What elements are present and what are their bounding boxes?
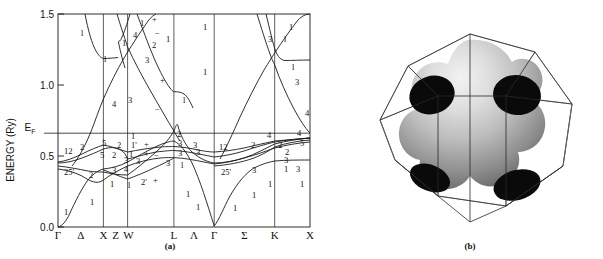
band-label-1-i: 1 (284, 164, 288, 174)
band-label-3-k: 3 (136, 156, 140, 166)
band-label-1-n: 1 (196, 202, 200, 212)
x-tick-label-w: W (123, 229, 134, 240)
band-label-l-3: l (183, 95, 186, 105)
x-tick-label-l: L (171, 229, 178, 240)
band-curve-7 (117, 14, 180, 141)
x-tick-label-sigma: Σ (241, 229, 247, 240)
band-label-5-c: 5 (100, 150, 104, 160)
band-label-1-r: 1 (300, 179, 304, 189)
x-tick-label-x-1: X (99, 229, 107, 240)
band-label-3-b: 3 (128, 95, 132, 105)
band-label-3-c: 3 (268, 34, 272, 44)
band-label-1-f: 1 (289, 22, 293, 32)
band-label-3-m: 3 (252, 165, 256, 175)
band-label-5-a: 5 (102, 138, 106, 148)
fermi-level-label: EF (25, 122, 36, 135)
caption-panel-a: (a) (120, 241, 220, 251)
band-label-1-p: 1 (252, 190, 256, 200)
band-label-4-b: 4 (112, 99, 117, 109)
band-structure-plot: ENERGY (Ry) 0.0 0.5 1.0 1.5 EF (0, 0, 320, 240)
band-label-4-d: 4 (267, 130, 272, 140)
x-tick-label-z: Z (112, 229, 119, 240)
band-label-plus-b: + (160, 75, 165, 85)
band-label-1-q: 1 (268, 179, 272, 189)
band-label-plus-a: + (152, 14, 157, 24)
band-label-3-l: 3 (166, 158, 170, 168)
y-tick-label-1: 0.5 (40, 151, 54, 162)
y-tick-label-2: 1.0 (40, 80, 54, 91)
fermi-surface-render (320, 0, 603, 240)
band-label-1-c: 1 (166, 34, 170, 44)
y-tick-label-3: 1.5 (40, 9, 54, 20)
fermi-surface-panel (320, 0, 603, 259)
band-label-1-b: 1 (122, 38, 126, 48)
x-tick-label-delta: Δ (77, 229, 84, 240)
band-label-minus-b: − (155, 104, 160, 114)
band-label-2-g: 2 (112, 150, 116, 160)
y-axis-title: ENERGY (Ry) (5, 118, 16, 182)
band-label-12-b: 12 (219, 142, 228, 152)
band-curve-11 (266, 14, 310, 61)
band-label-3-o: 3 (296, 164, 300, 174)
band-curve-12 (85, 14, 118, 59)
band-label-l-1: l (81, 28, 84, 38)
band-label-3-h: 3 (196, 147, 200, 157)
band-label-5-b: 5 (300, 138, 304, 148)
band-label-l-7: l (128, 180, 131, 190)
band-label-2-e: 2 (251, 140, 255, 150)
band-label-l-2: l (104, 54, 107, 64)
band-label-1-j: 1 (110, 179, 114, 189)
band-label-2-f: 2 (278, 140, 282, 150)
band-label-2-b: 2 (80, 142, 84, 152)
band-label-2-a: 2 (152, 40, 156, 50)
band-label-minus-c: − (154, 150, 159, 160)
band-label-25prime-a: 25' (64, 167, 75, 177)
band-label-1-o: 1 (233, 203, 237, 213)
band-label-l-6: l (181, 160, 184, 170)
band-label-3-g: 3 (178, 138, 182, 148)
band-label-2-i: 2 (89, 170, 93, 180)
x-tick-label-gamma-2: Γ (211, 229, 217, 240)
band-label-2-c: 2 (117, 140, 121, 150)
band-label-12-a: 12 (64, 146, 73, 156)
band-label-4-a: 4 (133, 30, 138, 40)
band-label-plus-e: + (153, 175, 158, 185)
band-label-l-5: l (292, 62, 295, 72)
y-tick-label-0: 0.0 (40, 222, 54, 233)
x-tick-label-lambda: Λ (190, 229, 198, 240)
band-label-1-h: 1 (129, 149, 133, 159)
plot-frame (58, 14, 310, 227)
band-label-3-d: 3 (295, 77, 299, 87)
band-label-1-a: 1 (140, 18, 144, 28)
band-label-2prime: 2' (141, 177, 147, 187)
band-label-3-j: 3 (112, 165, 116, 175)
band-label-1-d: 1 (203, 22, 207, 32)
band-label-1-l: 1 (90, 197, 94, 207)
band-label-3-i: 3 (178, 148, 182, 158)
x-tick-label-k: K (271, 229, 279, 240)
figure-container: ENERGY (Ry) 0.0 0.5 1.0 1.5 EF (0, 0, 603, 259)
band-label-plus-d: + (144, 148, 149, 158)
band-label-3-a: 3 (145, 55, 149, 65)
band-structure-panel: ENERGY (Ry) 0.0 0.5 1.0 1.5 EF (0, 0, 320, 259)
band-label-1-m: 1 (186, 189, 190, 199)
x-tick-label-gamma-1: Γ (55, 229, 61, 240)
band-label-4-c: 4 (305, 108, 310, 118)
band-label-1-k: 1 (64, 207, 68, 217)
band-curve-10 (257, 14, 310, 133)
caption-panel-b: (b) (420, 241, 520, 251)
band-label-minus-a: − (155, 28, 160, 38)
band-label-25prime-b: 25' (221, 167, 232, 177)
x-tick-label-x-2: X (306, 229, 314, 240)
band-label-1-e: 1 (203, 67, 207, 77)
